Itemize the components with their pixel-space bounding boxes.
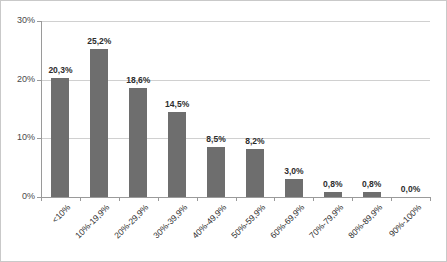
x-tick-mark bbox=[391, 197, 392, 201]
bar bbox=[246, 149, 264, 197]
bar-value-label: 8,5% bbox=[206, 135, 225, 144]
x-tick-mark bbox=[274, 197, 275, 201]
bar-value-label: 18,6% bbox=[126, 76, 150, 85]
y-tick-label: 0% bbox=[1, 192, 35, 201]
x-tick-label: 70%-79,9% bbox=[308, 203, 345, 240]
x-tick-mark bbox=[119, 197, 120, 201]
x-tick-mark bbox=[430, 197, 431, 201]
bar bbox=[168, 112, 186, 197]
x-tick-label: 80%-89,9% bbox=[347, 203, 384, 240]
x-tick-label: 40%-49,9% bbox=[191, 203, 228, 240]
bar-value-label: 0,8% bbox=[323, 180, 342, 189]
bar bbox=[285, 179, 303, 197]
chart-container: 0%10%20%30% 20,3%25,2%18,6%14,5%8,5%8,2%… bbox=[0, 0, 447, 262]
x-tick-label: 60%-69,9% bbox=[269, 203, 306, 240]
bar bbox=[324, 192, 342, 197]
y-tick-mark bbox=[37, 138, 41, 139]
bar-value-label: 25,2% bbox=[87, 37, 111, 46]
bar-value-label: 0,8% bbox=[362, 180, 381, 189]
y-tick-label: 30% bbox=[1, 16, 35, 25]
x-tick-label: <10% bbox=[51, 203, 73, 225]
x-tick-label: 10%-19,9% bbox=[74, 203, 111, 240]
x-tick-mark bbox=[352, 197, 353, 201]
x-tick-mark bbox=[80, 197, 81, 201]
bar-value-label: 20,3% bbox=[48, 66, 72, 75]
y-tick-label: 10% bbox=[1, 133, 35, 142]
gridline bbox=[41, 21, 430, 22]
y-tick-mark bbox=[37, 80, 41, 81]
bar-value-label: 14,5% bbox=[165, 100, 189, 109]
bar bbox=[363, 192, 381, 197]
x-tick-label: 50%-59,9% bbox=[230, 203, 267, 240]
x-tick-label: 20%-29,9% bbox=[113, 203, 150, 240]
bar bbox=[51, 78, 69, 197]
bar bbox=[90, 49, 108, 197]
x-tick-mark bbox=[158, 197, 159, 201]
bar-value-label: 8,2% bbox=[245, 137, 264, 146]
bar-value-label: 3,0% bbox=[284, 167, 303, 176]
y-tick-label: 20% bbox=[1, 75, 35, 84]
x-tick-mark bbox=[313, 197, 314, 201]
bar bbox=[129, 88, 147, 197]
x-tick-mark bbox=[41, 197, 42, 201]
bar bbox=[207, 147, 225, 197]
y-tick-mark bbox=[37, 21, 41, 22]
x-tick-label: 30%-39,9% bbox=[152, 203, 189, 240]
bar-value-label: 0,0% bbox=[401, 185, 420, 194]
x-tick-label: 90%-100% bbox=[387, 203, 422, 238]
x-tick-mark bbox=[197, 197, 198, 201]
y-axis-line bbox=[41, 21, 42, 198]
x-tick-mark bbox=[236, 197, 237, 201]
